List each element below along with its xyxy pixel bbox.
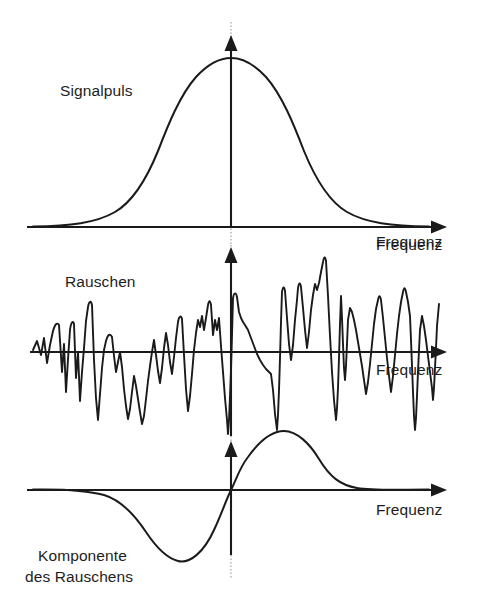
panel2-y-axis-arrowhead (225, 247, 238, 263)
figure-svg: Signalpuls Frequenz Rauschen Frequenz Fr… (0, 0, 481, 598)
panel2-axis-label: Frequenz (376, 361, 442, 378)
panel3-y-axis-arrowhead (225, 441, 238, 457)
panel-rauschen: Rauschen Frequenz Frequenz (30, 233, 447, 436)
panel-signalpuls: Signalpuls Frequenz (27, 35, 447, 253)
panel2-axis-label-top: Frequenz (376, 233, 442, 250)
panel1-x-axis-arrowhead (431, 221, 447, 234)
panel2-x-axis-arrowhead (431, 346, 447, 359)
panel3-axis-label: Frequenz (376, 501, 442, 518)
panel2-title-label: Rauschen (65, 273, 136, 290)
panel1-title-label: Signalpuls (60, 82, 133, 99)
panel-komponente: Komponente des Rauschens Frequenz (25, 431, 447, 585)
figure-container: Signalpuls Frequenz Rauschen Frequenz Fr… (0, 0, 481, 598)
panel3-title-label-line1: Komponente (38, 547, 127, 564)
panel3-x-axis-arrowhead (431, 484, 447, 497)
panel3-title-label-line2: des Rauschens (25, 568, 133, 585)
panel1-y-axis-arrowhead (225, 35, 238, 51)
